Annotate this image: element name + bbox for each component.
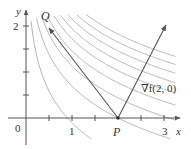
point-p-label: P xyxy=(112,125,121,139)
level-curve-plot: y x 0 1 3 2 P Q ∇f(2, 0) xyxy=(0,0,191,149)
vector-pq xyxy=(49,28,118,118)
point-q-label: Q xyxy=(41,9,50,23)
level-curve xyxy=(41,15,175,120)
point-p-dot xyxy=(116,116,120,120)
gradient-label: ∇f(2, 0) xyxy=(141,82,177,95)
y-axis-label: y xyxy=(15,5,21,17)
origin-label: 0 xyxy=(15,122,21,134)
vectors xyxy=(49,25,166,118)
y-tick-label-2: 2 xyxy=(13,20,19,32)
level-curve xyxy=(61,15,176,82)
level-curve xyxy=(37,19,170,139)
x-tick-label-3: 3 xyxy=(162,125,168,137)
axes xyxy=(8,10,180,145)
x-axis-label: x xyxy=(175,125,181,137)
vector-gradient xyxy=(118,25,166,118)
level-curve xyxy=(77,15,175,64)
x-tick-label-1: 1 xyxy=(69,125,75,137)
